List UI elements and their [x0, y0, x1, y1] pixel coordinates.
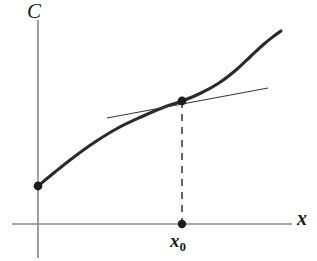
x0-label: x0 — [170, 230, 186, 255]
curve-start-point-marker — [34, 182, 43, 191]
x0-axis-point-marker — [178, 220, 186, 228]
y-axis-label: C — [27, 0, 41, 24]
tangent-line — [107, 88, 268, 118]
cost-curve-figure: C x x0 — [0, 0, 317, 261]
x-axis-label: x — [297, 207, 307, 230]
figure-canvas — [0, 0, 317, 261]
x0-label-base: x — [170, 230, 180, 251]
tangent-point-marker — [178, 97, 187, 106]
x0-label-subscript: 0 — [180, 239, 187, 254]
